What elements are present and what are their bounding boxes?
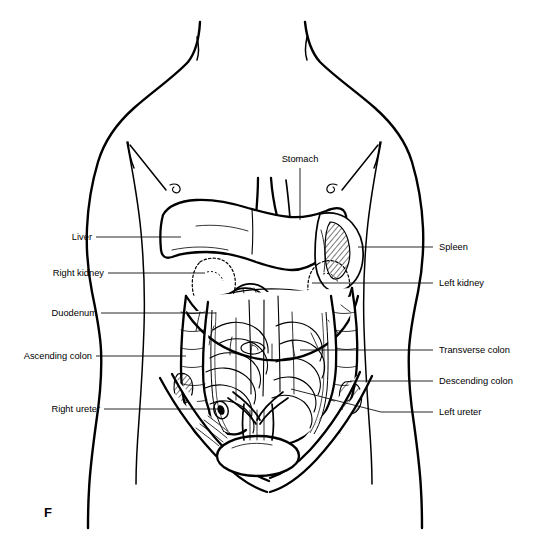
label-right-kidney: Right kidney [53,268,105,278]
label-descending-colon: Descending colon [439,376,513,386]
label-left-kidney: Left kidney [439,278,484,288]
label-transverse-colon: Transverse colon [439,345,510,355]
nipple-mark-left [327,184,337,193]
nipple-mark-right [170,184,180,193]
label-stomach: Stomach [282,154,319,164]
label-left-ureter: Left ureter [439,407,481,417]
anatomy-figure: Stomach Liver Right kidney Duodenum Asce… [0,0,533,533]
label-spleen: Spleen [439,242,468,252]
label-right-ureter: Right ureter [51,404,100,414]
label-ascending-colon: Ascending colon [24,351,92,361]
figure-marker: F [44,505,52,520]
anatomy-illustration: Stomach Liver Right kidney Duodenum Asce… [0,0,533,533]
label-duodenum: Duodenum [52,308,98,318]
bladder-organ [217,436,299,476]
label-liver: Liver [72,232,92,242]
